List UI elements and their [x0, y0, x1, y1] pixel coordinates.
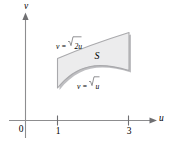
upper-curve-radicand: 2u: [74, 42, 82, 51]
uv-plane-figure: v u 0 1 3 S v = 2u v = u: [0, 0, 171, 149]
upper-curve-label: v = 2u: [56, 35, 82, 53]
origin-label: 0: [15, 124, 27, 134]
upper-curve-label-prefix: v =: [56, 42, 66, 51]
u-axis-tick-label-1: 1: [52, 126, 64, 136]
region-s-label: S: [91, 50, 103, 61]
v-axis-arrowhead-icon: [22, 13, 28, 21]
upper-curve-radical: 2u: [68, 35, 82, 53]
lower-curve-label: v = u: [77, 75, 99, 93]
v-axis-label: v: [19, 1, 33, 11]
lower-curve-label-prefix: v =: [77, 82, 87, 91]
u-axis-arrowhead-icon: [150, 117, 158, 123]
lower-curve-radicand: u: [95, 82, 99, 91]
u-axis-label: u: [159, 113, 171, 123]
radical-sign-icon: [68, 36, 74, 46]
radical-sign-icon: [89, 76, 95, 86]
u-axis-tick-label-3: 3: [123, 126, 135, 136]
lower-curve-radical: u: [89, 75, 99, 93]
